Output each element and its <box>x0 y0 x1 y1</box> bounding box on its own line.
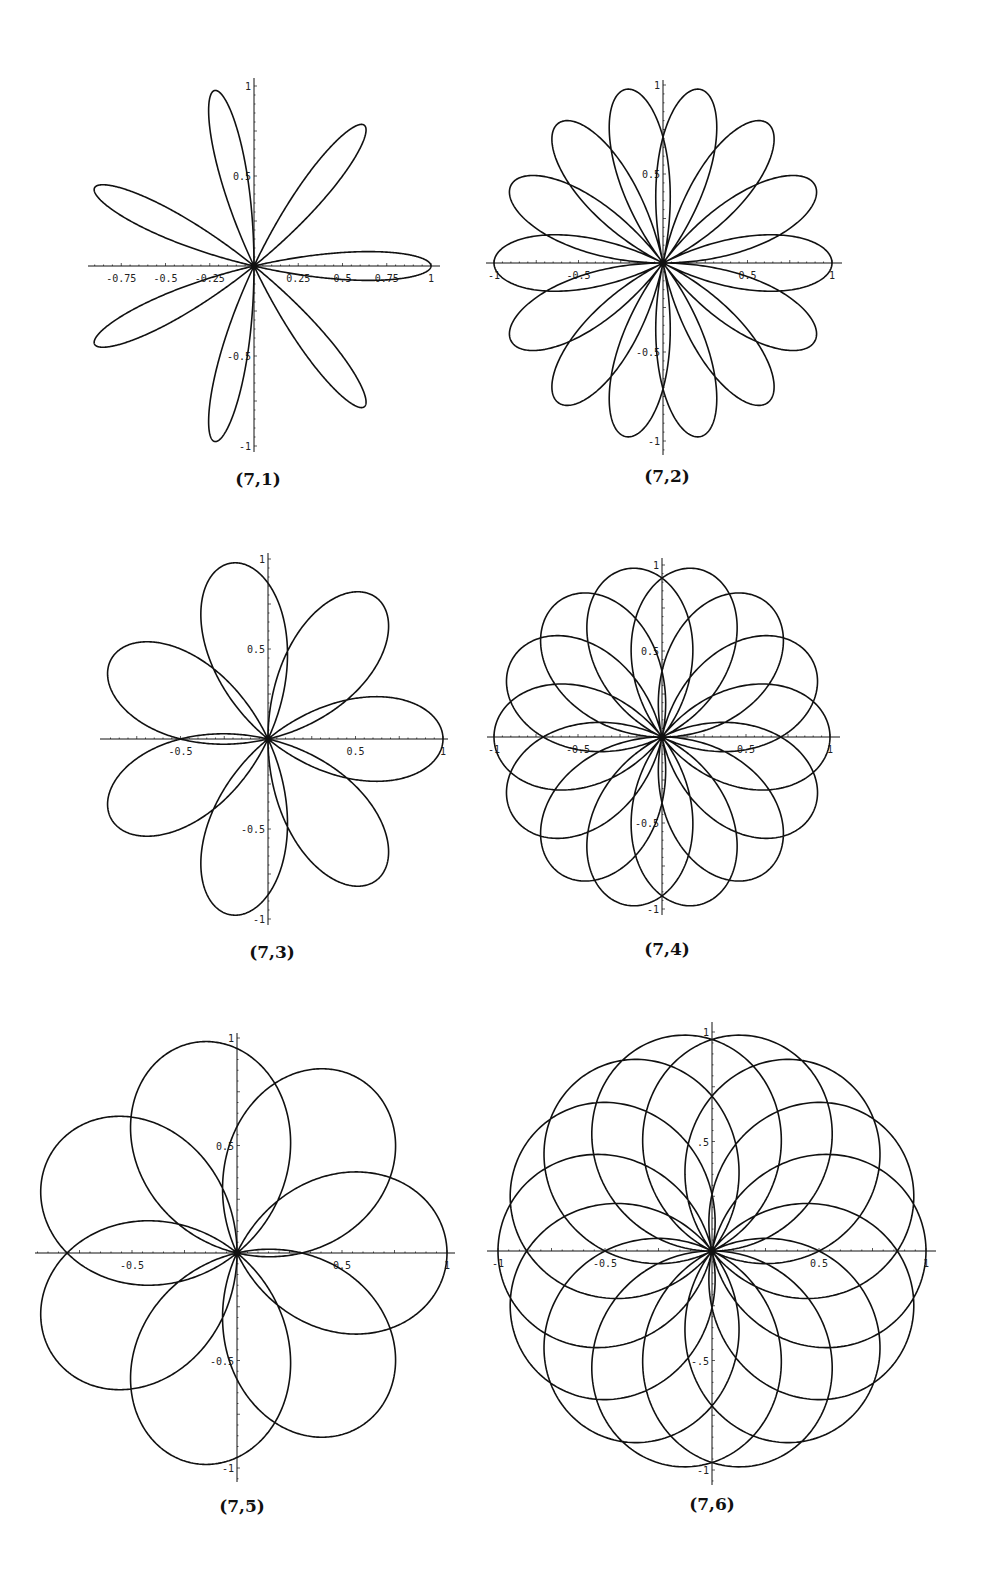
y-tick-label: 1 <box>653 560 659 571</box>
y-tick-label: 1 <box>703 1027 709 1038</box>
y-tick-label: -.5 <box>691 1356 709 1367</box>
caption-7-4: (7,4) <box>644 939 690 959</box>
y-tick-label: 0.5 <box>247 644 265 655</box>
y-tick-label: -1 <box>239 441 251 452</box>
x-tick-label: -0.5 <box>593 1258 617 1269</box>
x-tick-label: -0.75 <box>106 273 136 284</box>
rose-curves-figure: -0.75-0.5-0.250.250.50.75110.5-0.5-1-1-0… <box>0 0 982 1596</box>
y-tick-label: -1 <box>648 436 660 447</box>
x-tick-label: -0.5 <box>153 273 177 284</box>
y-tick-label: 1 <box>259 554 265 565</box>
caption-7-6: (7,6) <box>689 1494 735 1514</box>
y-tick-label: -1 <box>253 914 265 925</box>
x-tick-label: 1 <box>428 273 434 284</box>
rose-plot-7-6: -1-0.50.511.5-.5-1 <box>487 1022 936 1485</box>
x-tick-label: 0.5 <box>810 1258 828 1269</box>
x-tick-label: -1 <box>488 744 500 755</box>
rose-plot-7-1: -0.75-0.5-0.250.250.50.75110.5-0.5-1 <box>88 78 440 452</box>
y-tick-label: 1 <box>228 1033 234 1044</box>
y-tick-label: -1 <box>222 1463 234 1474</box>
y-tick-label: 1 <box>245 81 251 92</box>
x-tick-label: -0.5 <box>168 746 192 757</box>
caption-7-3: (7,3) <box>249 942 295 962</box>
x-tick-label: -1 <box>488 270 500 281</box>
caption-7-2: (7,2) <box>644 466 690 486</box>
y-tick-label: .5 <box>697 1137 709 1148</box>
y-tick-label: 0.5 <box>216 1141 234 1152</box>
plots-canvas: -0.75-0.5-0.250.250.50.75110.5-0.5-1-1-0… <box>0 0 982 1596</box>
caption-7-5: (7,5) <box>219 1496 265 1516</box>
rose-plot-7-5: -0.50.5110.5-0.5-1 <box>35 1033 455 1482</box>
y-tick-label: -0.5 <box>241 824 265 835</box>
rose-plot-7-4: -1-0.50.5110.5-0.5-1 <box>487 558 840 915</box>
rose-plot-7-3: -0.50.5110.5-0.5-1 <box>100 553 448 925</box>
y-tick-label: -1 <box>697 1465 709 1476</box>
caption-7-1: (7,1) <box>235 469 281 489</box>
y-tick-label: 1 <box>654 80 660 91</box>
rose-plot-7-2: -1-0.50.5110.5-0.5-1 <box>486 80 842 455</box>
y-tick-label: -1 <box>647 904 659 915</box>
x-tick-label: 0.5 <box>346 746 364 757</box>
x-tick-label: -0.5 <box>120 1260 144 1271</box>
